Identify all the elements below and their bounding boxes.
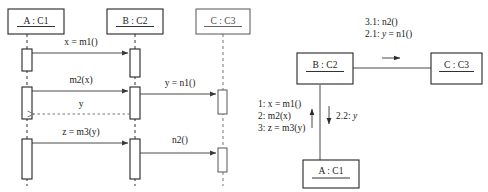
collab-message-2-1-prefix: 2.1: <box>365 29 382 39</box>
collab-message-2-1: 2.1: y = n1() <box>365 29 412 40</box>
object-label: B : C2 <box>313 60 338 70</box>
collaboration-object-b[interactable]: B : C2 <box>297 53 353 84</box>
activation-a-2 <box>22 87 32 119</box>
activation-b-3 <box>130 139 140 179</box>
activation-c-1 <box>218 90 227 114</box>
collaboration-object-c[interactable]: C : C3 <box>431 53 482 84</box>
sequence-diagram: A : C1 B : C2 C : C3 x = m1() m2(x) y = … <box>8 9 250 186</box>
collaboration-object-a[interactable]: A : C1 <box>303 160 359 188</box>
uml-diagram-svg: A : C1 B : C2 C : C3 x = m1() m2(x) y = … <box>0 0 488 192</box>
sequence-object-b[interactable]: B : C2 <box>107 9 163 34</box>
collab-message-1: 1: x = m1() <box>258 99 301 110</box>
message-label-n2: n2() <box>172 135 188 146</box>
diagram-canvas: A : C1 B : C2 C : C3 x = m1() m2(x) y = … <box>0 0 488 192</box>
message-label-m2: m2(x) <box>69 75 92 86</box>
collab-message-3: 3: z = m3(y) <box>258 123 305 134</box>
collaboration-diagram: B : C2 C : C3 A : C1 3.1: n2() 2.1: y = … <box>258 17 482 188</box>
object-label: C : C3 <box>444 60 469 70</box>
activation-b-1 <box>130 49 140 77</box>
object-label: A : C1 <box>24 16 49 26</box>
collab-message-2-2-prefix: 2.2: <box>336 111 353 121</box>
activation-a-1 <box>22 49 32 71</box>
object-label: C : C3 <box>211 16 236 26</box>
activation-c-2 <box>218 148 227 172</box>
message-label-return-y: y <box>79 99 84 109</box>
collab-message-3-1: 3.1: n2() <box>365 17 398 28</box>
collab-message-2-2: 2.2: y <box>336 111 358 121</box>
object-label: A : C1 <box>319 166 344 176</box>
message-label-n1: y = n1() <box>165 78 196 89</box>
collab-message-2-2-var: y <box>352 111 358 121</box>
message-label-m1: x = m1() <box>64 37 97 48</box>
object-label: B : C2 <box>123 16 148 26</box>
activation-a-3 <box>22 139 32 179</box>
sequence-object-c[interactable]: C : C3 <box>196 9 250 34</box>
collab-message-2-1-suffix: = n1() <box>386 29 412 40</box>
sequence-object-a[interactable]: A : C1 <box>8 9 64 34</box>
message-label-m3: z = m3(y) <box>62 127 100 138</box>
activation-b-2 <box>130 87 140 119</box>
collab-message-2: 2: m2(x) <box>258 111 291 122</box>
